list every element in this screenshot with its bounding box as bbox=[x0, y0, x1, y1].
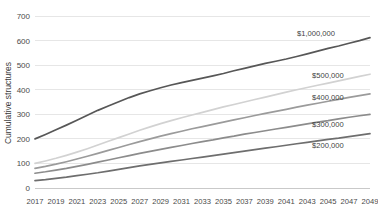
x-tick-label: 2031 bbox=[173, 197, 190, 206]
y-tick-label: 200 bbox=[17, 135, 31, 144]
y-tick-label: 500 bbox=[17, 61, 31, 70]
y-tick-label: 700 bbox=[17, 12, 31, 21]
y-tick-label: 600 bbox=[17, 37, 31, 46]
x-tick-label: 2023 bbox=[89, 197, 106, 206]
y-axis-title: Cumulative structures bbox=[3, 62, 13, 144]
series-label: $500,000 bbox=[312, 71, 344, 80]
x-tick-label: 2039 bbox=[257, 197, 274, 206]
x-tick-label: 2049 bbox=[362, 197, 378, 206]
y-tick-label: 400 bbox=[17, 86, 31, 95]
x-tick-label: 2037 bbox=[236, 197, 253, 206]
y-tick-label: 100 bbox=[17, 159, 31, 168]
x-tick-label: 2033 bbox=[194, 197, 211, 206]
chart-canvas: 0100200300400500600700 20172019202120232… bbox=[0, 0, 378, 219]
y-tick-label: 0 bbox=[26, 184, 31, 193]
x-tick-label: 2045 bbox=[320, 197, 337, 206]
x-tick-label: 2021 bbox=[68, 197, 85, 206]
x-tick-label: 2019 bbox=[47, 197, 64, 206]
line-chart: 0100200300400500600700 20172019202120232… bbox=[0, 0, 378, 219]
series-label: $1,000,000 bbox=[297, 29, 335, 38]
series-label: $200,000 bbox=[312, 141, 344, 150]
x-tick-label: 2025 bbox=[110, 197, 127, 206]
x-tick-label: 2027 bbox=[131, 197, 148, 206]
y-tick-label: 300 bbox=[17, 110, 31, 119]
x-tick-label: 2041 bbox=[278, 197, 295, 206]
x-tick-label: 2047 bbox=[341, 197, 358, 206]
x-tick-label: 2043 bbox=[299, 197, 316, 206]
series-label: $400,000 bbox=[312, 93, 344, 102]
x-axis-tick-labels: 2017201920212023202520272029203120332035… bbox=[27, 197, 378, 206]
x-tick-label: 2017 bbox=[27, 197, 44, 206]
x-tick-label: 2035 bbox=[215, 197, 232, 206]
series-label: $300,000 bbox=[312, 120, 344, 129]
x-tick-label: 2029 bbox=[152, 197, 169, 206]
